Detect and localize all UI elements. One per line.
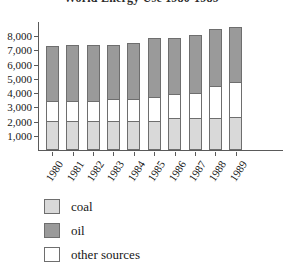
stacked-bar: [148, 38, 161, 150]
bar-column: [83, 22, 103, 150]
bar-segment-coal: [189, 118, 202, 150]
bar-segment-coal: [107, 121, 120, 150]
bar-segment-other: [87, 101, 100, 122]
bar-segment-coal: [148, 121, 161, 150]
chart-title: World Energy Use 1980-1989: [0, 0, 283, 6]
bar-segment-oil: [209, 29, 222, 87]
legend-item[interactable]: other sources: [44, 242, 264, 266]
x-axis-line: [38, 150, 283, 151]
bar-segment-other: [127, 99, 140, 122]
bar-column: [205, 22, 225, 150]
bar-column: [42, 22, 62, 150]
y-axis-tick-label: 6,000: [7, 59, 32, 70]
bar-column: [185, 22, 205, 150]
bar-segment-coal: [127, 121, 140, 150]
x-axis-tick: [73, 152, 74, 156]
bar-segment-oil: [229, 27, 242, 83]
legend-label: coal: [71, 200, 93, 213]
bar-segment-coal: [229, 117, 242, 150]
y-axis-tick-label: 2,000: [7, 116, 32, 127]
y-axis-tick-label: 7,000: [7, 45, 32, 56]
bar-segment-oil: [87, 45, 100, 101]
legend-swatch-coal: [44, 199, 60, 214]
stacked-bar: [46, 46, 59, 150]
x-axis-tick-label: 1988: [207, 159, 228, 183]
x-axis-tick-label: 1985: [146, 159, 167, 183]
bar-segment-oil: [46, 46, 59, 102]
bar-segment-coal: [168, 118, 181, 150]
y-axis-line: [38, 22, 39, 151]
x-axis-labels: 1980198119821983198419851986198719881989: [38, 152, 246, 192]
x-axis-tick: [154, 152, 155, 156]
stacked-bar: [127, 43, 140, 150]
bar-segment-other: [148, 97, 161, 122]
bar-segment-coal: [87, 121, 100, 150]
stacked-bar: [87, 45, 100, 150]
y-axis-tick: [34, 36, 39, 37]
x-axis-tick: [113, 152, 114, 156]
legend-swatch-oil: [44, 223, 60, 238]
y-axis-tick: [34, 122, 39, 123]
legend-item[interactable]: coal: [44, 194, 264, 218]
x-axis-tick-label: 1983: [105, 159, 126, 183]
y-axis-tick-label: 1,000: [7, 130, 32, 141]
bar-segment-other: [66, 101, 79, 122]
bar-segment-other: [209, 86, 222, 119]
y-axis-tick-label: 5,000: [7, 73, 32, 84]
plot-area: 1,0002,0003,0004,0005,0006,0007,0008,000: [38, 22, 246, 151]
stacked-bar: [107, 45, 120, 150]
chart-figure: World Energy Use 1980-1989 1,0002,0003,0…: [0, 0, 283, 269]
y-axis-tick-label: 8,000: [7, 31, 32, 42]
bar-segment-coal: [66, 121, 79, 150]
y-axis-tick: [34, 65, 39, 66]
bar-segment-other: [189, 93, 202, 119]
y-axis-tick: [34, 107, 39, 108]
bar-segment-oil: [107, 45, 120, 100]
y-axis-tick-label: 4,000: [7, 88, 32, 99]
y-axis-tick-label: 3,000: [7, 102, 32, 113]
bar-column: [226, 22, 246, 150]
legend-label: oil: [71, 224, 85, 237]
y-axis-tick: [34, 50, 39, 51]
bar-segment-oil: [127, 43, 140, 101]
bar-segment-other: [46, 101, 59, 122]
bar-segment-oil: [189, 35, 202, 93]
x-axis-tick-label: 1989: [228, 159, 249, 183]
bar-column: [103, 22, 123, 150]
legend-item[interactable]: oil: [44, 218, 264, 242]
x-axis-tick-label: 1982: [85, 159, 106, 183]
x-axis-tick: [215, 152, 216, 156]
bar-segment-other: [229, 82, 242, 118]
x-axis-tick: [195, 152, 196, 156]
x-axis-tick: [236, 152, 237, 156]
stacked-bar: [66, 45, 79, 150]
x-axis-tick-label: 1987: [187, 159, 208, 183]
bar-segment-other: [168, 94, 181, 119]
x-axis-tick: [93, 152, 94, 156]
stacked-bar: [209, 29, 222, 150]
x-axis-tick-label: 1984: [126, 159, 147, 183]
bar-group: [42, 22, 246, 150]
y-axis-tick: [34, 136, 39, 137]
bar-segment-oil: [168, 38, 181, 96]
bar-segment-coal: [46, 121, 59, 150]
legend-label: other sources: [71, 248, 140, 261]
x-axis-tick: [52, 152, 53, 156]
y-axis-tick: [34, 93, 39, 94]
bar-segment-oil: [66, 45, 79, 102]
bar-segment-oil: [148, 38, 161, 98]
chart-legend: coaloilother sources: [44, 194, 264, 266]
bar-segment-other: [107, 99, 120, 122]
x-axis-tick-label: 1980: [44, 159, 65, 183]
bar-column: [144, 22, 164, 150]
x-axis-tick: [175, 152, 176, 156]
bar-column: [124, 22, 144, 150]
stacked-bar: [229, 27, 242, 150]
x-axis-tick: [134, 152, 135, 156]
x-axis-tick-label: 1981: [65, 159, 86, 183]
bar-column: [164, 22, 184, 150]
x-axis-tick-label: 1986: [167, 159, 188, 183]
bar-column: [62, 22, 82, 150]
bar-segment-coal: [209, 118, 222, 150]
stacked-bar: [168, 38, 181, 150]
